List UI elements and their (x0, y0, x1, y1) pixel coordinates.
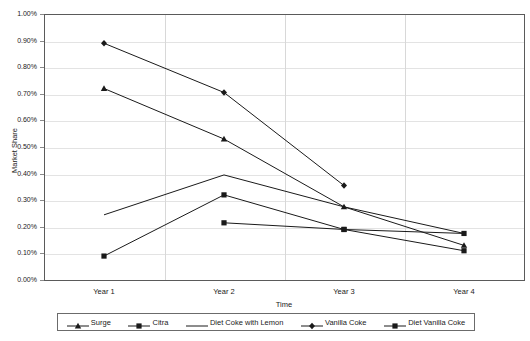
y-tick-label: 1.00% (0, 10, 37, 18)
legend-label: Vanilla Coke (325, 318, 367, 327)
x-tick-label: Year 4 (404, 287, 524, 296)
legend-item-citra[interactable]: Citra (128, 317, 168, 327)
legend-item-diet-coke-with-lemon[interactable]: Diet Coke with Lemon (186, 317, 283, 327)
x-tick-label: Year 3 (284, 287, 404, 296)
chart-legend: SurgeCitraDiet Coke with LemonVanilla Co… (57, 313, 475, 331)
y-tick-label: 0.10% (0, 249, 37, 257)
legend-item-surge[interactable]: Surge (67, 317, 111, 327)
category-separator (285, 15, 286, 280)
legend-item-diet-vanilla-coke[interactable]: Diet Vanilla Coke (384, 317, 465, 327)
legend-swatch (67, 317, 89, 327)
x-tick-label: Year 2 (164, 287, 284, 296)
y-tick-label: 0.30% (0, 196, 37, 204)
y-tick-label: 0.40% (0, 170, 37, 178)
y-tick-label: 0.80% (0, 63, 37, 71)
square-marker-icon (128, 321, 150, 331)
triangle-marker-icon (67, 321, 89, 331)
y-tick-label: 0.90% (0, 37, 37, 45)
line-marker-icon (186, 321, 208, 331)
legend-label: Surge (91, 318, 111, 327)
y-tick-label: 0.50% (0, 143, 37, 151)
legend-swatch (384, 317, 406, 327)
legend-swatch (301, 317, 323, 327)
y-tick-label: 0.20% (0, 223, 37, 231)
diamond-marker-icon (301, 321, 323, 331)
x-axis-title: Time (44, 300, 524, 309)
legend-label: Citra (152, 318, 168, 327)
x-tick-label: Year 1 (44, 287, 164, 296)
legend-item-vanilla-coke[interactable]: Vanilla Coke (301, 317, 367, 327)
legend-swatch (186, 317, 208, 327)
legend-label: Diet Vanilla Coke (408, 318, 465, 327)
square-marker-icon (384, 321, 406, 331)
y-tick-label: 0.00% (0, 276, 37, 284)
chart-root: Market Share 0.00%0.10%0.20%0.30%0.40%0.… (0, 0, 530, 341)
y-tick-label: 0.60% (0, 116, 37, 124)
category-separator (165, 15, 166, 280)
y-tick-label: 0.70% (0, 90, 37, 98)
legend-swatch (128, 317, 150, 327)
plot-area (44, 14, 525, 281)
legend-label: Diet Coke with Lemon (210, 318, 283, 327)
category-separator (405, 15, 406, 280)
